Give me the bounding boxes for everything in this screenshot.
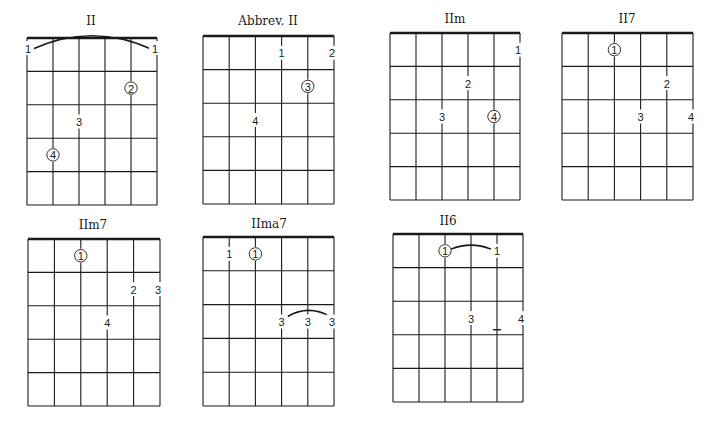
svg-text:1: 1 [442,245,448,257]
fretboard-grid: 1134 [0,0,718,429]
finger-number: 1 [491,244,503,258]
svg-text:3: 3 [468,313,474,325]
finger-number: 3 [465,311,477,325]
circled-finger-number: 1 [439,244,451,258]
svg-text:4: 4 [518,313,524,325]
svg-text:1: 1 [494,245,500,257]
finger-number: 4 [515,311,527,325]
